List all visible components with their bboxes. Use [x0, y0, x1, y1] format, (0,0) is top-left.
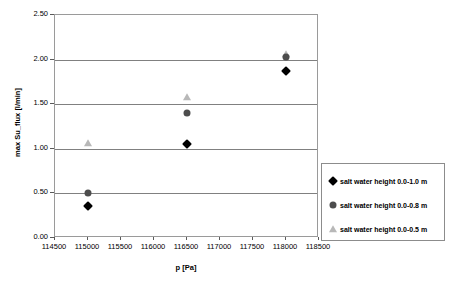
- x-tick-mark: [87, 237, 88, 240]
- legend-marker-diamond: [328, 177, 337, 186]
- triangle-marker: [329, 225, 337, 232]
- legend-label: salt water height 0.0-0.5 m: [340, 225, 427, 234]
- data-point: [84, 139, 92, 146]
- legend: salt water height 0.0-1.0 msalt water he…: [321, 163, 445, 241]
- y-tick-label: 2.00: [18, 55, 48, 63]
- y-tick-mark: [50, 59, 54, 60]
- x-tick-mark: [186, 237, 187, 240]
- x-tick-mark: [252, 237, 253, 240]
- y-tick-mark: [50, 148, 54, 149]
- data-point: [281, 66, 291, 76]
- data-point: [182, 139, 192, 149]
- gridline: [55, 60, 317, 61]
- x-tick-label: 118500: [298, 243, 338, 251]
- data-point: [85, 190, 92, 197]
- scatter-chart: 0.000.501.001.502.002.50 114500115000115…: [0, 0, 451, 282]
- data-point: [184, 110, 191, 117]
- x-tick-mark: [285, 237, 286, 240]
- y-tick-label: 0.50: [18, 188, 48, 196]
- y-axis-title: max Su_flux [l/min]: [13, 58, 22, 188]
- x-tick-mark: [318, 237, 319, 240]
- legend-item[interactable]: salt water height 0.0-0.5 m: [328, 223, 427, 235]
- y-tick-mark: [50, 192, 54, 193]
- plot-area: [54, 14, 318, 237]
- diamond-marker: [328, 176, 338, 186]
- gridline: [55, 193, 317, 194]
- x-tick-mark: [153, 237, 154, 240]
- legend-item[interactable]: salt water height 0.0-1.0 m: [328, 175, 427, 187]
- data-point: [83, 201, 93, 211]
- circle-marker: [329, 202, 336, 209]
- legend-marker-circle: [328, 201, 337, 210]
- gridline: [55, 149, 317, 150]
- y-tick-mark: [50, 14, 54, 15]
- x-tick-mark: [120, 237, 121, 240]
- legend-label: salt water height 0.0-0.8 m: [340, 201, 427, 210]
- legend-marker-triangle: [328, 225, 337, 234]
- y-tick-label: 1.00: [18, 144, 48, 152]
- legend-label: salt water height 0.0-1.0 m: [340, 177, 427, 186]
- data-point: [283, 53, 290, 60]
- y-tick-mark: [50, 103, 54, 104]
- x-axis-title: p [Pa]: [54, 263, 318, 272]
- data-point: [183, 93, 191, 100]
- legend-item[interactable]: salt water height 0.0-0.8 m: [328, 199, 427, 211]
- x-tick-mark: [54, 237, 55, 240]
- y-tick-label: 1.50: [18, 99, 48, 107]
- gridline: [55, 104, 317, 105]
- y-tick-label: 0.00: [18, 233, 48, 241]
- y-tick-label: 2.50: [18, 10, 48, 18]
- x-tick-mark: [219, 237, 220, 240]
